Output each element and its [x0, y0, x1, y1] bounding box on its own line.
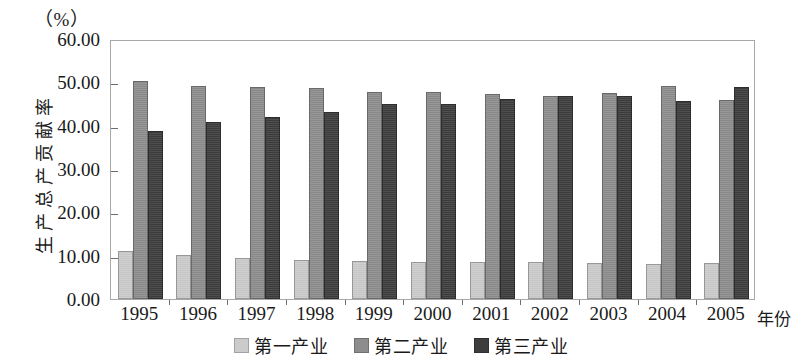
bar — [734, 87, 749, 299]
bar — [528, 262, 543, 299]
bars-layer — [111, 41, 754, 299]
x-tick-label: 1996 — [169, 303, 228, 325]
bar — [367, 92, 382, 299]
bar — [500, 99, 515, 299]
bar — [148, 131, 163, 299]
bar — [118, 251, 133, 299]
bar — [352, 261, 367, 299]
y-tick-label: 40.00 — [24, 117, 100, 136]
chart-container: （%） 生产总产贡献率 0.0010.0020.0030.0040.0050.0… — [0, 0, 802, 357]
legend-swatch-icon — [474, 338, 489, 353]
bar-group — [639, 41, 698, 299]
y-tick-label: 20.00 — [24, 203, 100, 222]
bar — [676, 101, 691, 299]
bar — [617, 96, 632, 299]
y-tick-label: 30.00 — [24, 160, 100, 179]
legend-swatch-icon — [234, 338, 249, 353]
x-tick-label: 2000 — [403, 303, 462, 325]
x-tick-label: 2005 — [696, 303, 755, 325]
chart-legend: 第一产业第二产业第三产业 — [0, 332, 802, 357]
legend-label: 第二产业 — [374, 332, 448, 357]
bar-group — [697, 41, 756, 299]
bar — [382, 104, 397, 299]
bar-group — [228, 41, 287, 299]
x-axis-title: 年份 — [757, 305, 791, 330]
y-tick-label: 50.00 — [24, 73, 100, 92]
bar — [719, 100, 734, 299]
bar — [133, 81, 148, 299]
x-tick-label: 1997 — [227, 303, 286, 325]
bar — [250, 87, 265, 299]
y-tick-label: 60.00 — [24, 30, 100, 49]
x-tick-label: 2002 — [520, 303, 579, 325]
bar — [235, 258, 250, 299]
x-tick-label: 2001 — [462, 303, 521, 325]
plot-area — [110, 40, 755, 300]
bar — [587, 263, 602, 299]
bar-group — [346, 41, 405, 299]
bar-group — [580, 41, 639, 299]
bar — [470, 262, 485, 299]
legend-swatch-icon — [354, 338, 369, 353]
y-tick-label: 10.00 — [24, 247, 100, 266]
bar — [485, 94, 500, 299]
legend-label: 第三产业 — [494, 332, 568, 357]
legend-item[interactable]: 第三产业 — [474, 332, 568, 357]
x-tick-label: 2004 — [638, 303, 697, 325]
legend-item[interactable]: 第一产业 — [234, 332, 328, 357]
bar — [441, 104, 456, 299]
bar — [324, 112, 339, 299]
x-tick-label: 1998 — [286, 303, 345, 325]
bar — [176, 255, 191, 299]
bar — [294, 260, 309, 299]
legend-label: 第一产业 — [254, 332, 328, 357]
bar-group — [111, 41, 170, 299]
bar — [265, 117, 280, 299]
x-tick-label: 2003 — [579, 303, 638, 325]
bar-group — [463, 41, 522, 299]
y-axis-tick-labels: 0.0010.0020.0030.0040.0050.0060.00 — [24, 0, 100, 357]
bar — [206, 122, 221, 299]
bar — [602, 93, 617, 299]
bar-group — [170, 41, 229, 299]
bar — [558, 96, 573, 299]
x-tick-label: 1995 — [110, 303, 169, 325]
bar — [543, 96, 558, 299]
bar — [411, 262, 426, 299]
bar — [704, 263, 719, 299]
bar — [426, 92, 441, 299]
bar-group — [521, 41, 580, 299]
bar — [661, 86, 676, 299]
bar — [191, 86, 206, 299]
y-tick-label: 0.00 — [24, 290, 100, 309]
x-tick-label: 1999 — [345, 303, 404, 325]
bar — [646, 264, 661, 299]
legend-item[interactable]: 第二产业 — [354, 332, 448, 357]
bar-group — [404, 41, 463, 299]
bar — [309, 88, 324, 299]
bar-group — [287, 41, 346, 299]
